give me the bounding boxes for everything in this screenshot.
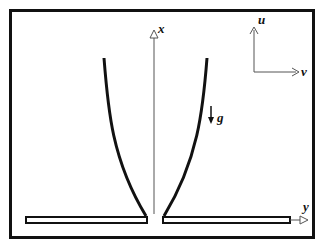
left-plate (26, 217, 147, 223)
right-plate (163, 217, 290, 223)
x-axis-label: x (157, 21, 165, 36)
right-meniscus-curve (164, 58, 207, 216)
gravity-label: g (216, 110, 224, 125)
diagram: x y g u v (0, 0, 323, 246)
gravity-arrowhead-icon (208, 117, 214, 124)
figure-frame (11, 11, 314, 238)
u-axis-label: u (258, 12, 265, 27)
v-axis-label: v (301, 64, 307, 79)
y-axis-label: y (301, 199, 309, 214)
left-meniscus-curve (104, 58, 146, 216)
y-axis-arrowhead (300, 216, 308, 224)
x-axis-arrowhead (150, 30, 158, 38)
